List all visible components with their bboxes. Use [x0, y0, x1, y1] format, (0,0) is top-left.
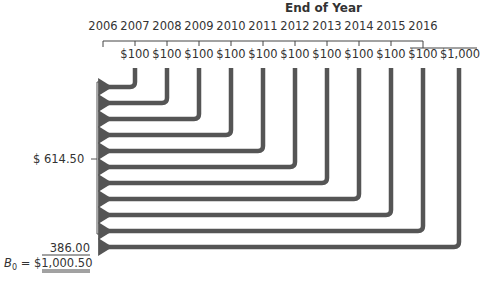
bond-symbol: B	[4, 256, 12, 270]
principal-pv-value: 386.00	[50, 241, 90, 255]
bond-value-line: B0 = $1,000.50	[4, 256, 92, 272]
timeline-axis	[103, 41, 477, 48]
discount-arrows	[108, 68, 459, 247]
bond-value: $1,000.50	[34, 256, 93, 270]
coupon-pv-value: $ 614.50	[33, 152, 84, 166]
equals-sign: =	[17, 256, 34, 270]
coupon-bracket	[91, 82, 101, 234]
